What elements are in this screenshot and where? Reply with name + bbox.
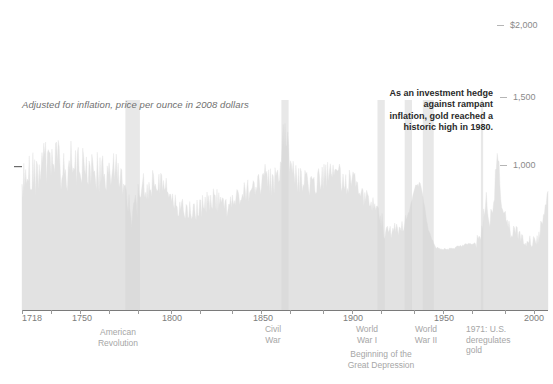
y-axis-label-1500: 1,500 <box>500 92 536 102</box>
x-tick-1834 <box>232 310 233 314</box>
annotation-investment-hedge: As an investment hedge against rampant i… <box>385 88 493 134</box>
x-tick-1866 <box>290 310 291 314</box>
x-tick-1816 <box>200 310 201 314</box>
event-label-world-war-i: WorldWar I <box>337 324 397 345</box>
x-axis-label-1950: 1950 <box>434 313 454 323</box>
event-label-american-revolution: AmericanRevolution <box>78 327 158 348</box>
x-tick-1766 <box>109 310 110 314</box>
left-axis-tick <box>14 166 22 167</box>
chart-container: Adjusted for inflation, price per ounce … <box>0 0 553 384</box>
x-tick-1934 <box>414 310 415 314</box>
x-axis-label-2000: 2000 <box>524 313 544 323</box>
event-label-great-depression: Beginning of theGreat Depression <box>330 349 432 370</box>
x-tick-1984 <box>505 310 506 314</box>
x-tick-1966 <box>472 310 473 314</box>
event-band-civil-war <box>281 100 288 310</box>
x-tick-1734 <box>51 310 52 314</box>
y-tick-dash-icon <box>497 25 504 26</box>
event-label-civil-war: CivilWar <box>243 324 303 345</box>
event-band-american-revolution <box>125 100 140 310</box>
y-tick-dash-icon <box>500 165 507 166</box>
x-tick-1916 <box>381 310 382 314</box>
x-tick-1884 <box>323 310 324 314</box>
x-axis-label-1750: 1750 <box>72 313 92 323</box>
y-axis-label-1000: 1,000 <box>500 160 536 170</box>
event-label-gold-deregulation: 1971: U.S.deregulatesgold <box>466 324 546 356</box>
event-band-world-war-i <box>378 100 385 310</box>
y-tick-dash-icon <box>500 97 507 98</box>
x-tick-1782 <box>138 310 139 314</box>
event-label-world-war-ii: WorldWar II <box>396 324 456 345</box>
chart-subtitle: Adjusted for inflation, price per ounce … <box>22 99 249 110</box>
y-axis-label-2000: $2,000 <box>497 20 538 30</box>
x-axis-label-1900: 1900 <box>343 313 363 323</box>
x-axis-label-1850: 1850 <box>253 313 273 323</box>
x-axis-line <box>22 310 548 311</box>
x-axis-label-1718: 1718 <box>22 313 42 323</box>
x-axis-label-1800: 1800 <box>162 313 182 323</box>
